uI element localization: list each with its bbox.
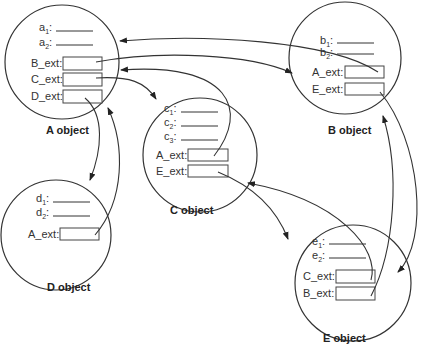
c-e-ext-slot (188, 165, 228, 177)
b-a-ext-slot (345, 66, 384, 78)
b-a-ext-label: A_ext: (312, 66, 343, 78)
arrow-e-to-c (248, 183, 372, 280)
e-b-ext-label: B_ext: (303, 287, 334, 299)
arrow-e-to-b (371, 116, 393, 296)
c-a-ext-label: A_ext: (156, 149, 187, 161)
c-object: c1: c2: c3: A_ext: E_ext: C object (143, 98, 257, 216)
a-object: a1: a2: B_ext: C_ext: D_ext: A object (5, 5, 119, 136)
svg-text:d1:: d1: (36, 192, 49, 206)
e-c-ext-slot (336, 270, 375, 283)
c-object-title: C object (170, 204, 214, 216)
svg-text:a1:: a1: (39, 21, 52, 35)
arrow-b-to-e (380, 92, 417, 272)
object-reference-diagram: a1: a2: B_ext: C_ext: D_ext: A object b1… (0, 0, 428, 354)
svg-text:c1:: c1: (164, 102, 176, 116)
a-c-ext-label: C_ext: (31, 73, 63, 85)
e-b-ext-slot (336, 287, 375, 300)
svg-text:c3:: c3: (164, 130, 176, 144)
svg-text:e1:: e1: (312, 235, 325, 249)
d-object: d1: d2: A_ext: D object (1, 180, 111, 293)
arrow-a-to-b (96, 55, 292, 73)
a-object-title: A object (46, 124, 89, 136)
svg-text:d2:: d2: (36, 206, 49, 220)
a-d-ext-slot (63, 90, 102, 103)
a-b-ext-label: B_ext: (31, 57, 62, 69)
svg-text:e2:: e2: (312, 249, 325, 263)
arrow-a-to-c (96, 78, 156, 99)
e-object: e1: e2: C_ext: B_ext: E object (295, 225, 411, 344)
d-a-ext-label: A_ext: (28, 228, 59, 240)
b-object: b1: b2: A_ext: E_ext: B object (289, 2, 401, 136)
c-a-ext-slot (188, 149, 228, 161)
b-object-title: B object (328, 124, 372, 136)
e-object-title: E object (323, 332, 366, 344)
d-object-title: D object (47, 281, 91, 293)
a-c-ext-slot (63, 73, 102, 86)
c-e-ext-label: E_ext: (156, 165, 187, 177)
b-e-ext-slot (345, 83, 384, 95)
arrow-c-to-e (218, 172, 288, 239)
e-c-ext-label: C_ext: (303, 270, 335, 282)
d-a-ext-slot (60, 228, 99, 240)
a-d-ext-label: D_ext: (31, 90, 63, 102)
a-b-ext-slot (63, 57, 102, 70)
b-e-ext-label: E_ext: (312, 83, 343, 95)
svg-text:a2:: a2: (39, 36, 52, 50)
svg-text:c2:: c2: (164, 116, 176, 130)
